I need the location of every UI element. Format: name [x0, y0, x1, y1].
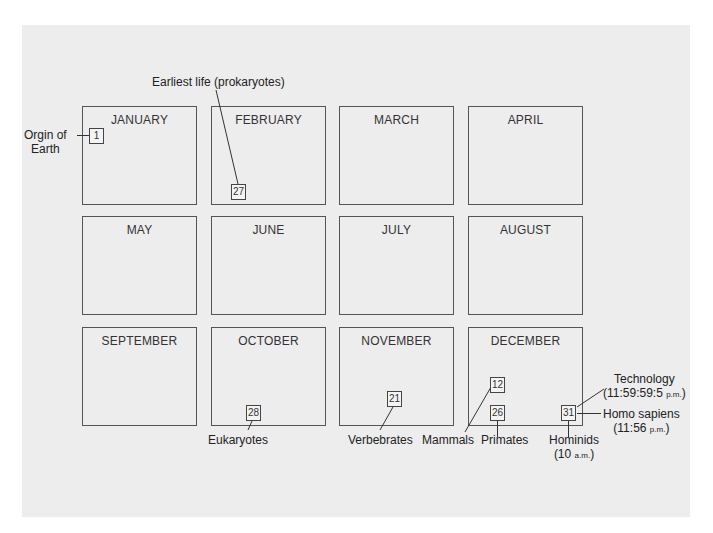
month-label: JULY: [340, 223, 453, 237]
primates-label: Primates: [481, 433, 528, 447]
technology-label: Technology (11:59:59:5 p.m.): [603, 372, 686, 402]
homo-sapiens-label: Homo sapiens (11:56 p.m.): [603, 407, 680, 437]
vertebrates-label: Verbebrates: [348, 433, 413, 447]
month-september: SEPTEMBER: [82, 327, 197, 426]
hominids-time: (10 a.m.): [549, 447, 599, 463]
day-marker-jan-1: 1: [89, 128, 104, 144]
month-label: AUGUST: [469, 223, 582, 237]
day-marker-nov-21: 21: [387, 391, 402, 407]
month-june: JUNE: [211, 216, 326, 315]
month-label: OCTOBER: [212, 334, 325, 348]
month-label: NOVEMBER: [340, 334, 453, 348]
month-label: MARCH: [340, 113, 453, 127]
earliest-life-label: Earliest life (prokaryotes): [152, 75, 285, 89]
day-marker-dec-12: 12: [490, 377, 505, 393]
homo-sapiens-text: Homo sapiens: [603, 407, 680, 421]
origin-of-earth-label: Orgin of Earth: [24, 128, 67, 156]
month-january: JANUARY: [82, 106, 197, 205]
month-label: APRIL: [469, 113, 582, 127]
month-label: SEPTEMBER: [83, 334, 196, 348]
month-march: MARCH: [339, 106, 454, 205]
month-may: MAY: [82, 216, 197, 315]
month-label: FEBRUARY: [212, 113, 325, 127]
day-marker-dec-26: 26: [490, 405, 505, 421]
month-april: APRIL: [468, 106, 583, 205]
month-label: JANUARY: [83, 113, 196, 127]
month-label: JUNE: [212, 223, 325, 237]
origin-line-1: Orgin of: [24, 128, 67, 142]
month-october: OCTOBER: [211, 327, 326, 426]
day-marker-feb-27: 27: [231, 184, 246, 200]
month-july: JULY: [339, 216, 454, 315]
day-marker-dec-31: 31: [561, 405, 576, 421]
origin-line-2: Earth: [24, 142, 67, 156]
hominids-label: Hominids (10 a.m.): [549, 433, 599, 463]
day-marker-oct-28: 28: [246, 405, 261, 421]
month-label: DECEMBER: [469, 334, 582, 348]
month-november: NOVEMBER: [339, 327, 454, 426]
technology-time: (11:59:59:5 p.m.): [603, 386, 686, 402]
hominids-text: Hominids: [549, 433, 599, 447]
month-label: MAY: [83, 223, 196, 237]
month-february: FEBRUARY: [211, 106, 326, 205]
homo-sapiens-time: (11:56 p.m.): [603, 421, 680, 437]
month-august: AUGUST: [468, 216, 583, 315]
eukaryotes-label: Eukaryotes: [208, 433, 268, 447]
technology-text: Technology: [603, 372, 686, 386]
mammals-label: Mammals: [422, 433, 474, 447]
